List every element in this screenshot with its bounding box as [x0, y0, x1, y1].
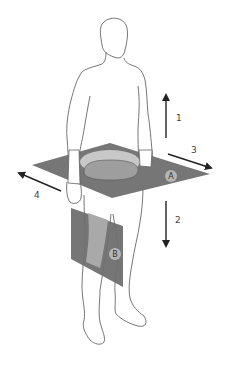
- anatomy-planes-diagram: A B 1 2 3 4: [0, 0, 225, 366]
- arrow-3-label: 3: [191, 145, 197, 155]
- plane-a-label: A: [168, 172, 174, 181]
- plane-b: B: [71, 208, 123, 287]
- right-forearm-over-plane: [139, 150, 152, 167]
- plane-b-label: B: [112, 250, 118, 259]
- arrow-1-label: 1: [176, 113, 182, 123]
- left-forearm-over-plane: [68, 150, 80, 184]
- arrow-4-icon: [19, 173, 61, 191]
- arrow-2-label: 2: [175, 215, 181, 225]
- arrow-4-label: 4: [34, 190, 40, 200]
- left-hand-outline: [67, 182, 82, 203]
- right-arm-outline: [138, 86, 139, 160]
- head-outline: [100, 18, 127, 58]
- cross-section-mid: [84, 160, 138, 180]
